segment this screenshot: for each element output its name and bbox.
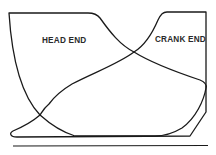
crank-end-card-curve [11,12,206,137]
crank-end-label: CRANK END [155,35,206,44]
indicator-diagram [0,0,216,155]
head-end-label: HEAD END [42,36,86,45]
head-end-card-curve [9,13,206,136]
atmospheric-line [13,146,208,147]
